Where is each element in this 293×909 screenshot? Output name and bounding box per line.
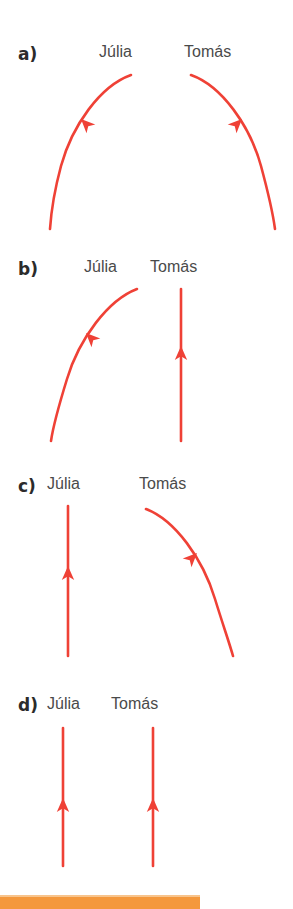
panel-d-label-tomas: Tomás (111, 696, 158, 712)
page-accent-bar (0, 897, 200, 909)
panel-b-label-julia: Júlia (84, 259, 117, 275)
panel-a-tomas-arrow-line (191, 75, 275, 229)
panel-letter-a: a) (18, 46, 37, 63)
panel-a-label-tomas: Tomás (184, 44, 231, 60)
figure-root: a)JúliaTomásb)JúliaTomásc)JúliaTomásd)Jú… (0, 0, 293, 909)
arrow-diagram-canvas (0, 0, 293, 909)
panel-c-tomas-arrow-line (146, 509, 233, 656)
panel-letter-b: b) (18, 261, 38, 278)
panel-a-julia-arrow-line (50, 75, 131, 229)
panel-b-label-tomas: Tomás (150, 259, 197, 275)
panel-d-label-julia: Júlia (47, 696, 80, 712)
panel-letter-c: c) (18, 478, 36, 495)
panel-letter-d: d) (18, 697, 38, 714)
panel-c-label-tomas: Tomás (139, 476, 186, 492)
panel-c-label-julia: Júlia (47, 476, 80, 492)
panel-a-label-julia: Júlia (99, 44, 132, 60)
panel-b-julia-arrow-line (51, 289, 137, 441)
